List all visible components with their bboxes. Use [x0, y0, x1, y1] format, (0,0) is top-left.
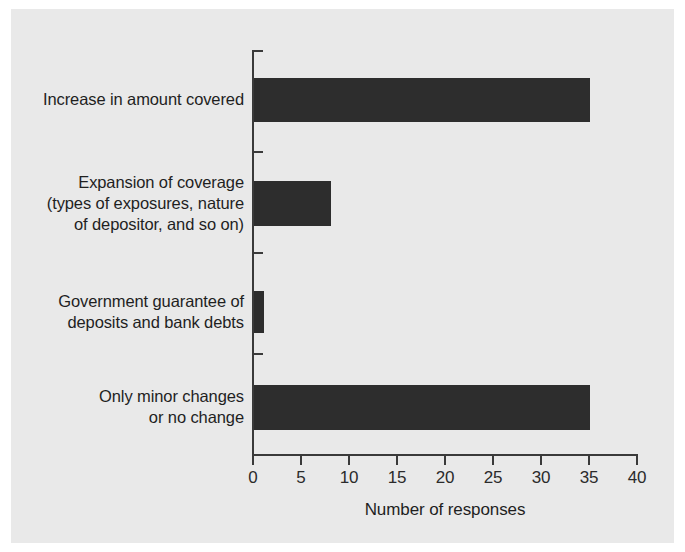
- x-axis-tick-10: [348, 456, 350, 465]
- x-axis-title: Number of responses: [252, 500, 638, 520]
- horizontal-bar-chart: 0 5 10 15 20 25 30 35 40 Increase in amo…: [0, 0, 685, 552]
- x-axis-tick-5: [300, 456, 302, 465]
- y-axis-tick-0: [254, 50, 263, 52]
- category-label-only-minor-changes: Only minor changes or no change: [99, 386, 244, 428]
- y-axis-tick-3: [254, 353, 263, 355]
- x-axis-label-35: 35: [569, 468, 609, 488]
- y-axis-tick-2: [254, 252, 263, 254]
- y-axis-tick-1: [254, 151, 263, 153]
- x-axis-label-30: 30: [521, 468, 561, 488]
- category-label-increase-in-amount-covered: Increase in amount covered: [43, 89, 244, 110]
- bar-only-minor-changes: [254, 385, 590, 430]
- category-label-government-guarantee: Government guarantee of deposits and ban…: [58, 291, 244, 333]
- figure-frame: 0 5 10 15 20 25 30 35 40 Increase in amo…: [0, 0, 685, 552]
- x-axis-label-15: 15: [377, 468, 417, 488]
- x-axis-label-20: 20: [425, 468, 465, 488]
- x-axis-tick-30: [540, 456, 542, 465]
- bar-increase-in-amount-covered: [254, 78, 590, 122]
- x-axis-tick-40: [636, 456, 638, 465]
- x-axis-label-5: 5: [281, 468, 321, 488]
- x-axis-label-10: 10: [329, 468, 369, 488]
- x-axis-label-25: 25: [473, 468, 513, 488]
- x-axis-label-40: 40: [617, 468, 657, 488]
- x-axis-tick-20: [444, 456, 446, 465]
- x-axis-tick-0: [252, 456, 254, 465]
- bar-expansion-of-coverage: [254, 181, 331, 226]
- x-axis-tick-15: [396, 456, 398, 465]
- category-label-expansion-of-coverage: Expansion of coverage (types of exposure…: [47, 172, 244, 235]
- x-axis-tick-25: [492, 456, 494, 465]
- x-axis-tick-35: [588, 456, 590, 465]
- x-axis-label-0: 0: [233, 468, 273, 488]
- bar-government-guarantee: [254, 291, 264, 333]
